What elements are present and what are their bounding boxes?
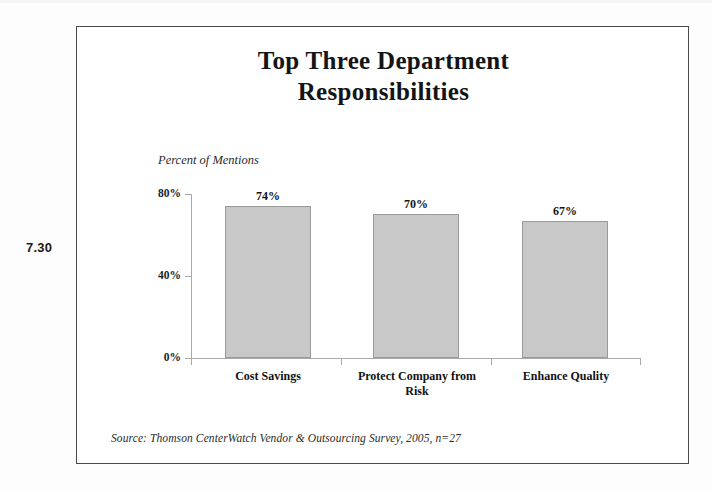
bar-value-protect-company-from-risk: 70% bbox=[373, 197, 459, 212]
y-tick-mark-40 bbox=[185, 276, 191, 277]
category-label-cost-savings: Cost Savings bbox=[193, 369, 343, 384]
category-label-protect-company-from-risk-line-1: Protect Company from bbox=[358, 369, 476, 383]
bar-cost-savings bbox=[225, 206, 311, 358]
scan-edge bbox=[0, 0, 712, 3]
scanned-page: 7.30 Top Three Department Responsibiliti… bbox=[0, 0, 712, 493]
x-tick-mark-end bbox=[640, 358, 641, 365]
x-tick-mark-start bbox=[191, 358, 192, 365]
bar-value-enhance-quality: 67% bbox=[522, 204, 608, 219]
bar-value-cost-savings: 74% bbox=[225, 189, 311, 204]
y-axis-line bbox=[191, 194, 192, 358]
bar-enhance-quality bbox=[522, 221, 608, 358]
y-tick-label-40: 40% bbox=[135, 269, 181, 281]
x-tick-mark-2 bbox=[491, 358, 492, 365]
plot-area: 80% 40% 0% 74% 70% 67% Co bbox=[77, 27, 690, 465]
category-label-cost-savings-line-1: Cost Savings bbox=[235, 369, 301, 383]
category-label-protect-company-from-risk: Protect Company from Risk bbox=[342, 369, 492, 399]
category-label-enhance-quality: Enhance Quality bbox=[491, 369, 641, 384]
figure-frame: Top Three Department Responsibilities Pe… bbox=[76, 26, 689, 464]
category-label-protect-company-from-risk-line-2: Risk bbox=[405, 384, 428, 398]
y-tick-label-80: 80% bbox=[135, 187, 181, 199]
x-axis-line bbox=[191, 358, 641, 359]
source-note: Source: Thomson CenterWatch Vendor & Out… bbox=[111, 432, 461, 444]
y-tick-mark-80 bbox=[185, 194, 191, 195]
figure-number: 7.30 bbox=[26, 240, 52, 255]
bar-protect-company-from-risk bbox=[373, 214, 459, 358]
y-tick-label-0: 0% bbox=[135, 351, 181, 363]
x-tick-mark-1 bbox=[341, 358, 342, 365]
category-label-enhance-quality-line-1: Enhance Quality bbox=[523, 369, 609, 383]
